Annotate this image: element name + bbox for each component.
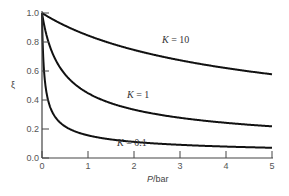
y-tick-label: 1.0 (26, 8, 39, 18)
x-axis-title: P/bar (147, 174, 169, 184)
curve-k0.1 (42, 13, 272, 148)
x-tick-label: 2 (131, 161, 136, 171)
y-tick-label: 0.4 (26, 95, 39, 105)
x-tick-label: 1 (85, 161, 90, 171)
y-tick-label: 0.6 (26, 66, 39, 76)
y-axis-title: ξ (11, 80, 15, 90)
x-ticks: 012345 (39, 151, 274, 171)
y-tick-label: 0.2 (26, 124, 39, 134)
y-tick-label: 0.8 (26, 37, 39, 47)
chart-plot: 0.00.20.40.60.81.0 012345 ξ P/bar K = 10… (0, 0, 289, 196)
curve-k10 (42, 13, 272, 74)
curve-label: K = 10 (161, 34, 189, 45)
x-tick-label: 0 (39, 161, 44, 171)
curves (42, 13, 272, 148)
curve-label: K = 0.1 (116, 137, 147, 148)
x-tick-label: 3 (177, 161, 182, 171)
curve-labels: K = 10K = 1K = 0.1 (116, 34, 189, 148)
curve-label: K = 1 (126, 89, 149, 100)
x-tick-label: 5 (269, 161, 274, 171)
x-tick-label: 4 (223, 161, 228, 171)
y-tick-label: 0.0 (26, 153, 39, 163)
